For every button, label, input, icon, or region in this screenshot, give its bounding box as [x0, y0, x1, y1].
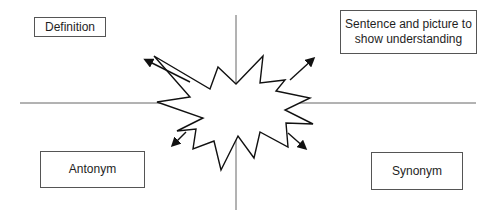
definition-box: Definition [34, 17, 106, 37]
arrow-to-sentence [290, 59, 313, 80]
synonym-label: Synonym [392, 164, 442, 179]
definition-label: Definition [45, 20, 95, 35]
sentence-picture-label: Sentence and picture to show understandi… [345, 17, 472, 47]
synonym-box: Synonym [371, 152, 463, 190]
antonym-box: Antonym [40, 151, 145, 188]
sentence-picture-box: Sentence and picture to show understandi… [340, 10, 477, 54]
arrow-to-definition [146, 60, 190, 82]
arrow-to-synonym [288, 133, 305, 148]
starburst-shape [154, 56, 313, 170]
antonym-label: Antonym [69, 162, 116, 177]
arrow-to-antonym [173, 132, 186, 145]
